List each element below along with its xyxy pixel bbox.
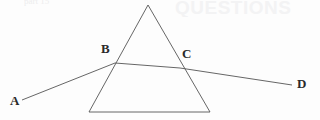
prism-refraction-figure: part 15 QUESTIONS A B C D — [0, 0, 320, 120]
point-label-b: B — [101, 42, 110, 55]
point-label-d: D — [297, 77, 306, 90]
prism-triangle — [89, 5, 210, 112]
point-label-c: C — [182, 47, 191, 60]
ray-diagram-canvas — [0, 0, 320, 120]
incident-ray-ab — [22, 63, 115, 100]
point-label-a: A — [10, 94, 19, 107]
internal-ray-bc — [115, 63, 180, 68]
emergent-ray-cd — [180, 68, 292, 85]
